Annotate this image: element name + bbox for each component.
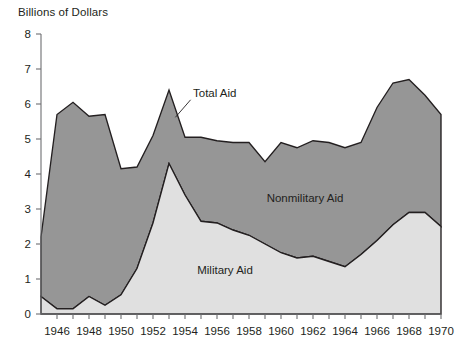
x-tick-label: 1962 xyxy=(300,325,326,337)
x-tick-label: 1958 xyxy=(236,325,262,337)
x-tick-label: 1960 xyxy=(268,325,294,337)
chart-container: Billions of Dollars 01234567819461948195… xyxy=(0,0,471,356)
y-tick-label: 8 xyxy=(25,28,31,40)
x-tick-label: 1954 xyxy=(172,325,198,337)
y-tick-label: 5 xyxy=(25,133,31,145)
x-tick-label: 1948 xyxy=(76,325,102,337)
x-tick-label: 1956 xyxy=(204,325,230,337)
label-military-aid: Military Aid xyxy=(197,264,253,276)
label-total-aid: Total Aid xyxy=(193,87,236,99)
x-tick-label: 1970 xyxy=(428,325,454,337)
y-tick-label: 1 xyxy=(25,273,31,285)
y-tick-label: 3 xyxy=(25,203,31,215)
label-nonmilitary-aid: Nonmilitary Aid xyxy=(267,192,344,204)
x-tick-label: 1950 xyxy=(108,325,134,337)
y-tick-label: 0 xyxy=(25,308,31,320)
y-tick-label: 2 xyxy=(25,238,31,250)
total-aid-leader-line xyxy=(175,100,190,118)
x-tick-label: 1968 xyxy=(396,325,422,337)
x-tick-label: 1946 xyxy=(44,325,70,337)
series-areas xyxy=(41,80,441,315)
x-tick-label: 1964 xyxy=(332,325,358,337)
y-tick-label: 6 xyxy=(25,98,31,110)
y-tick-label: 4 xyxy=(25,168,32,180)
x-tick-label: 1952 xyxy=(140,325,166,337)
x-tick-label: 1966 xyxy=(364,325,390,337)
area-chart-plot: 0123456781946194819501952195419561958196… xyxy=(0,0,471,356)
y-tick-label: 7 xyxy=(25,63,31,75)
